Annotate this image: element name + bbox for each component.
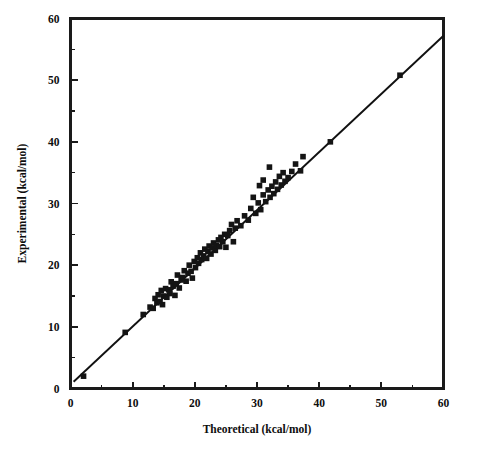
x-tick-label: 20 xyxy=(189,397,201,409)
data-point-marker xyxy=(172,293,178,299)
data-point-marker xyxy=(273,179,279,185)
x-tick-label: 30 xyxy=(251,397,263,409)
data-point-marker xyxy=(190,275,196,281)
data-point-marker xyxy=(289,169,295,175)
data-point-marker xyxy=(140,312,146,318)
data-point-marker xyxy=(253,211,259,217)
data-point-marker xyxy=(167,291,173,297)
x-tick-label: 10 xyxy=(127,397,139,409)
data-point-marker xyxy=(176,285,182,291)
data-point-marker xyxy=(245,217,251,223)
data-point-marker xyxy=(227,228,233,234)
y-tick-label: 60 xyxy=(48,13,60,25)
data-point-marker xyxy=(183,278,189,284)
data-point-marker xyxy=(328,139,334,145)
y-tick-label: 10 xyxy=(48,321,60,333)
data-point-marker xyxy=(234,218,240,224)
data-point-marker xyxy=(397,72,403,78)
y-axis-title: Experimental (kcal/mol) xyxy=(16,143,29,263)
x-tick-label: 50 xyxy=(376,397,388,409)
x-tick-label: 0 xyxy=(68,397,74,409)
data-point-marker xyxy=(150,306,156,312)
data-point-marker xyxy=(232,225,238,231)
data-point-marker xyxy=(257,183,263,189)
data-point-marker xyxy=(238,223,244,229)
data-point-marker xyxy=(250,195,256,201)
y-tick-label: 50 xyxy=(48,74,60,86)
data-point-marker xyxy=(260,192,266,198)
y-tick-label: 40 xyxy=(48,136,60,148)
data-point-marker xyxy=(160,302,166,308)
x-axis-title: Theoretical (kcal/mol) xyxy=(203,423,312,436)
y-tick-label: 20 xyxy=(48,259,60,271)
data-point-marker xyxy=(186,262,192,268)
y-tick-label: 0 xyxy=(54,383,60,395)
data-point-marker xyxy=(81,373,87,379)
data-point-marker xyxy=(255,200,261,206)
data-point-marker xyxy=(300,154,306,160)
x-tick-label: 60 xyxy=(438,397,450,409)
data-point-marker xyxy=(231,239,237,245)
data-point-marker xyxy=(220,239,226,245)
data-point-marker xyxy=(280,170,286,176)
data-point-marker xyxy=(248,206,254,212)
plot-canvas: 01020304050600102030405060 Theoretical (… xyxy=(0,0,480,449)
data-point-marker xyxy=(225,233,231,239)
data-point-marker xyxy=(217,244,223,250)
data-point-marker xyxy=(298,168,304,174)
data-point-marker xyxy=(285,175,291,181)
data-point-marker xyxy=(293,161,299,167)
data-point-marker xyxy=(260,177,266,183)
data-point-marker xyxy=(267,164,273,170)
data-point-marker xyxy=(258,207,264,213)
x-tick-label: 40 xyxy=(313,397,325,409)
data-point-marker xyxy=(122,330,128,336)
data-point-marker xyxy=(223,244,229,250)
y-tick-label: 30 xyxy=(48,198,60,210)
scatter-plot-figure: 01020304050600102030405060 Theoretical (… xyxy=(0,0,480,449)
data-point-marker xyxy=(175,272,181,278)
